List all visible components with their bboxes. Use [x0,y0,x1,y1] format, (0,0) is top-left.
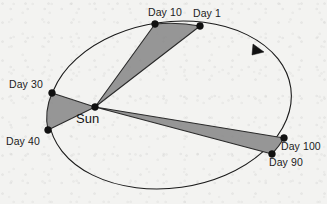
node-marker-day-10 [152,21,159,28]
orbit-diagram-canvas [0,0,327,204]
label-day-30: Day 30 [9,79,43,90]
label-day-40: Day 40 [6,136,40,147]
kepler-equal-area-diagram: Day 1 Day 10 Day 30 Day 40 Day 90 Day 10… [0,0,327,204]
label-day-10: Day 10 [148,7,182,18]
sun-marker-icon [92,104,99,111]
label-day-90: Day 90 [269,157,303,168]
orbital-direction-arrow-icon [252,44,264,55]
label-day-1: Day 1 [193,8,221,19]
label-sun: Sun [76,112,99,125]
sector-day-1-to-day-10 [95,23,200,107]
sector-day-90-to-day-100 [95,107,284,154]
node-marker-day-1 [197,23,204,30]
node-marker-day-40 [45,127,52,134]
node-marker-day-30 [49,90,56,97]
label-day-100: Day 100 [281,141,321,152]
